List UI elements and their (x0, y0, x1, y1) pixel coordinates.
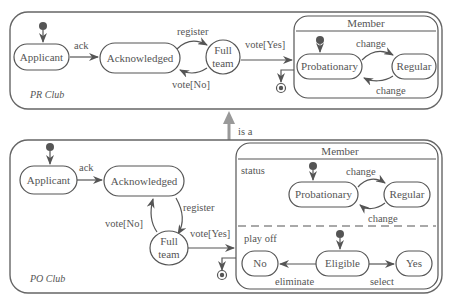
svg-text:Applicant: Applicant (20, 51, 63, 63)
state-probationary[interactable]: Probationary (297, 54, 362, 79)
svg-text:Member: Member (321, 145, 359, 157)
initial-state-icon (316, 36, 324, 44)
svg-text:change: change (368, 213, 398, 224)
state-no[interactable]: No (242, 251, 278, 276)
pr-club-label: PR Club (29, 89, 64, 100)
svg-text:Acknowledged: Acknowledged (111, 175, 178, 187)
svg-text:change: change (376, 85, 406, 96)
region-play-off-label: play off (244, 233, 277, 244)
svg-text:team: team (212, 57, 234, 69)
svg-text:vote[Yes]: vote[Yes] (190, 228, 230, 239)
svg-text:Yes: Yes (406, 257, 422, 269)
svg-text:team: team (158, 248, 180, 260)
svg-text:select: select (370, 276, 394, 287)
state-yes[interactable]: Yes (396, 251, 432, 276)
initial-state-icon (46, 143, 54, 151)
svg-text:Probationary: Probationary (301, 60, 358, 72)
svg-text:ack: ack (79, 162, 94, 173)
svg-text:Applicant: Applicant (27, 174, 70, 186)
state-acknowledged[interactable]: Acknowledged (104, 166, 184, 196)
svg-text:No: No (253, 257, 267, 269)
svg-text:PO Club: PO Club (29, 273, 65, 284)
state-full-team[interactable]: Full team (206, 40, 240, 74)
state-regular[interactable]: Regular (384, 182, 430, 207)
svg-text:Member: Member (347, 17, 385, 29)
svg-text:Acknowledged: Acknowledged (107, 52, 174, 64)
svg-text:vote[Yes]: vote[Yes] (245, 39, 285, 50)
initial-state-icon (309, 162, 317, 170)
svg-text:register: register (177, 26, 209, 37)
region-status-label: status (241, 165, 265, 176)
svg-text:vote[No]: vote[No] (172, 79, 210, 90)
po-club-state: PO Club Applicant ack Acknowledged regis… (10, 140, 442, 293)
state-acknowledged[interactable]: Acknowledged (100, 43, 180, 73)
svg-text:Full: Full (214, 44, 232, 56)
state-diagram: PR Club Applicant ack Acknowledged regis… (0, 0, 456, 302)
svg-text:is a: is a (238, 126, 253, 137)
svg-text:eliminate: eliminate (275, 276, 314, 287)
svg-text:vote[No]: vote[No] (105, 218, 143, 229)
initial-state-icon (336, 230, 344, 238)
state-probationary[interactable]: Probationary (289, 182, 358, 207)
state-applicant[interactable]: Applicant (14, 44, 69, 70)
state-full-team[interactable]: Full team (150, 231, 188, 265)
state-eligible[interactable]: Eligible (316, 251, 369, 276)
member-composite-state: Member status Probationary Regular chang… (236, 143, 438, 289)
svg-text:register: register (183, 202, 215, 213)
svg-text:Regular: Regular (397, 60, 432, 72)
svg-text:Probationary: Probationary (295, 188, 352, 200)
state-regular[interactable]: Regular (392, 54, 436, 79)
svg-text:change: change (356, 38, 386, 49)
svg-text:change: change (346, 166, 376, 177)
svg-text:Regular: Regular (390, 188, 425, 200)
state-applicant[interactable]: Applicant (20, 166, 77, 194)
pr-club-state: PR Club Applicant ack Acknowledged regis… (10, 12, 442, 109)
svg-text:Full: Full (160, 235, 178, 247)
member-composite-state: Member Probationary Regular change chang… (294, 16, 438, 98)
initial-state-icon (39, 22, 47, 30)
inheritance-arrow: is a (223, 111, 253, 140)
svg-text:Eligible: Eligible (325, 257, 360, 269)
svg-text:ack: ack (74, 40, 89, 51)
